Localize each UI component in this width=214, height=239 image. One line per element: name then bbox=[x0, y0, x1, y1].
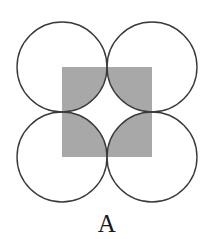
central-astroid-region bbox=[62, 67, 152, 157]
figure-container: A bbox=[0, 0, 214, 239]
figure-label: A bbox=[0, 210, 214, 238]
four-circles-square-diagram bbox=[0, 0, 214, 239]
